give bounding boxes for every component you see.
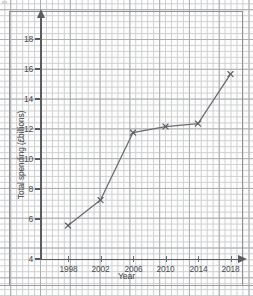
series-line — [68, 74, 231, 226]
series-markers — [65, 72, 233, 229]
graph-paper-sheet: 18 16 14 12 10 8 6 4 1998 2002 2006 2010… — [0, 0, 253, 296]
line-series-plot — [0, 0, 253, 296]
